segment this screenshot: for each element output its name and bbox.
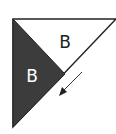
lower-label: B [26, 66, 38, 86]
upper-label: B [59, 32, 71, 52]
fold-diagram: B B [0, 0, 116, 134]
